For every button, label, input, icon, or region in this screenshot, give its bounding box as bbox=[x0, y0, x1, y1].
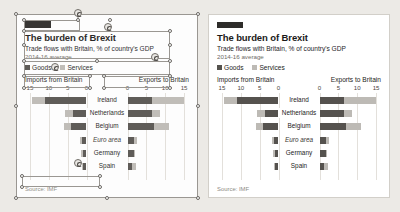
rotation-handle-legend[interactable] bbox=[51, 63, 59, 71]
legend-item-goods-preview: Goods bbox=[217, 64, 243, 71]
resize-handle-nw[interactable] bbox=[22, 18, 26, 22]
bar-segment-goods bbox=[237, 97, 278, 104]
resize-handle-n2[interactable] bbox=[95, 59, 99, 63]
bar-exports-ireland bbox=[128, 97, 185, 104]
resize-handle-e1[interactable] bbox=[168, 29, 172, 33]
resize-handle-m2[interactable] bbox=[102, 74, 106, 78]
bar-exports-germany bbox=[128, 150, 136, 157]
resize-handle-n[interactable] bbox=[76, 18, 80, 22]
resize-handle-w1[interactable] bbox=[22, 29, 26, 33]
bar-segment-goods bbox=[275, 150, 279, 157]
resize-handle-w3[interactable] bbox=[22, 59, 26, 63]
bar-segment-services bbox=[257, 110, 265, 117]
resize-handle-w5[interactable] bbox=[22, 86, 26, 90]
resize-handle-se2[interactable] bbox=[98, 185, 102, 189]
legend-swatch-goods-icon bbox=[217, 65, 222, 70]
category-label: Ireland bbox=[94, 95, 120, 105]
resize-handle-right-mid[interactable] bbox=[196, 104, 200, 108]
bar-segment-services bbox=[134, 137, 137, 144]
tick-imports-15: 15 bbox=[27, 84, 34, 91]
rotation-handle-title[interactable] bbox=[104, 23, 112, 31]
axis-title-exports-preview: Exports to Britain bbox=[331, 76, 381, 83]
axis-title-exports: Exports to Britain bbox=[139, 76, 189, 83]
bar-segment-services bbox=[324, 163, 327, 170]
chart-object-preview[interactable]: The burden of Brexit Trade flows with Br… bbox=[208, 14, 390, 198]
resize-handle-ne-outer[interactable] bbox=[196, 12, 200, 16]
tick-imports-15-preview: 15 bbox=[219, 84, 226, 91]
bar-imports-netherlands bbox=[257, 110, 278, 117]
bar-segment-goods bbox=[83, 150, 87, 157]
bar-segment-services bbox=[326, 137, 329, 144]
bar-segment-goods bbox=[128, 123, 154, 130]
resize-handle-e4[interactable] bbox=[168, 74, 172, 78]
bar-exports-belgium bbox=[320, 123, 361, 130]
bar-segment-services bbox=[256, 123, 263, 130]
resize-handle-nw-outer[interactable] bbox=[14, 12, 18, 16]
bar-row: Belgium bbox=[25, 120, 189, 133]
resize-handle-sw[interactable] bbox=[14, 196, 18, 200]
bar-segment-goods bbox=[128, 97, 153, 104]
tick-exports-10-preview: 10 bbox=[354, 84, 361, 91]
tick-imports-10: 10 bbox=[45, 84, 52, 91]
resize-handle-se[interactable] bbox=[196, 196, 200, 200]
axis-title-imports-preview: Imports from Britain bbox=[217, 76, 275, 83]
resize-handle-se1[interactable] bbox=[98, 174, 102, 178]
bar-exports-netherlands bbox=[320, 110, 352, 117]
resize-handle-m1[interactable] bbox=[88, 74, 92, 78]
legend-label-goods-preview: Goods bbox=[224, 64, 243, 71]
category-label: Ireland bbox=[286, 95, 312, 105]
tick-exports-0-preview: 0 bbox=[318, 84, 321, 91]
chart-object-selected[interactable]: The burden of Brexit Trade flows with Br… bbox=[16, 14, 198, 198]
resize-handle-s[interactable] bbox=[105, 196, 109, 200]
tick-exports-15-preview: 15 bbox=[373, 84, 380, 91]
bar-row: Spain bbox=[25, 160, 189, 173]
resize-handle-sw1[interactable] bbox=[20, 174, 24, 178]
rotation-handle-top[interactable] bbox=[74, 9, 82, 17]
tick-exports-0: 0 bbox=[126, 84, 129, 91]
bar-imports-netherlands bbox=[65, 110, 86, 117]
tick-imports-5-preview: 5 bbox=[258, 84, 261, 91]
bar-row: Spain bbox=[217, 160, 381, 173]
bar-exports-netherlands bbox=[128, 110, 160, 117]
bar-segment-services bbox=[326, 150, 327, 157]
rotation-handle-plot[interactable] bbox=[74, 159, 82, 167]
category-label: Euro area bbox=[90, 135, 124, 145]
editor-canvas[interactable]: The burden of Brexit Trade flows with Br… bbox=[0, 0, 400, 212]
resize-handle-ne[interactable] bbox=[108, 18, 112, 22]
bar-row: Germany bbox=[217, 147, 381, 160]
resize-handle-w4[interactable] bbox=[22, 74, 26, 78]
chart-legend: Goods Services bbox=[25, 64, 189, 71]
resize-handle-e5[interactable] bbox=[168, 86, 172, 90]
bar-exports-euro-area bbox=[320, 137, 329, 144]
chart-inner-right: The burden of Brexit Trade flows with Br… bbox=[209, 15, 389, 197]
bar-segment-goods bbox=[71, 123, 87, 130]
resize-handle-m3[interactable] bbox=[88, 86, 92, 90]
axis-title-imports: Imports from Britain bbox=[25, 76, 83, 83]
bar-imports-germany bbox=[81, 150, 86, 157]
chart-plot-right: 15 10 5 0 0 5 10 15 IrelandNetherlandsBe… bbox=[217, 84, 381, 180]
resize-handle-sw2[interactable] bbox=[20, 185, 24, 189]
bar-imports-euro-area bbox=[272, 137, 278, 144]
bar-exports-ireland bbox=[320, 97, 377, 104]
bar-segment-services bbox=[346, 123, 361, 130]
bar-segment-goods bbox=[128, 110, 152, 117]
rotation-handle-right[interactable] bbox=[151, 53, 159, 61]
resize-handle-m4[interactable] bbox=[102, 86, 106, 90]
bar-imports-belgium bbox=[64, 123, 87, 130]
bar-segment-services bbox=[344, 110, 352, 117]
resize-handle-left-mid[interactable] bbox=[14, 104, 18, 108]
bar-row: Euro area bbox=[25, 134, 189, 147]
bar-segment-services bbox=[152, 110, 160, 117]
bar-exports-germany bbox=[320, 150, 328, 157]
tick-imports-0-preview: 0 bbox=[277, 84, 280, 91]
bar-segment-goods bbox=[320, 110, 344, 117]
legend-item-services-preview: Services bbox=[252, 64, 284, 71]
bar-segment-services bbox=[134, 150, 135, 157]
bar-segment-goods bbox=[45, 97, 86, 104]
bar-imports-belgium bbox=[256, 123, 279, 130]
chart-subtitle-preview: Trade flows with Britain, % of country's… bbox=[217, 45, 381, 53]
bar-segment-services bbox=[152, 97, 184, 104]
resize-handle-e3[interactable] bbox=[168, 59, 172, 63]
resize-handle-e2[interactable] bbox=[168, 43, 172, 47]
resize-handle-w2[interactable] bbox=[22, 43, 26, 47]
